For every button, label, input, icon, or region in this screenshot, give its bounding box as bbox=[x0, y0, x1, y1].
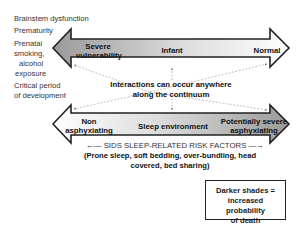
factor-critical-period: Critical period bbox=[14, 81, 60, 91]
factor-alcohol: alcohol bbox=[19, 59, 43, 69]
bottom-arrow-center-label: Sleep environment bbox=[135, 122, 211, 131]
left-arrow-icon: ←— bbox=[86, 141, 102, 150]
top-arrow-right-label: Normal bbox=[250, 46, 284, 55]
factor-brainstem-dysfunction: Brainstem dysfunction bbox=[14, 14, 89, 24]
factor-prematurity: Prematurity bbox=[14, 26, 53, 36]
risk-factors-title: SIDS SLEEP-RELATED RISK FACTORS bbox=[104, 141, 247, 150]
interactions-line-1: Interactions can occur anywhere bbox=[101, 80, 241, 90]
risk-details-line-2: covered, bed sharing) bbox=[70, 161, 270, 171]
factor-exposure: exposure bbox=[15, 69, 46, 79]
legend-line-2: increased probability bbox=[210, 196, 281, 216]
factor-prenatal: Prenatal bbox=[14, 39, 42, 49]
bottom-arrow-left-label: Non asphyxiating bbox=[64, 117, 114, 135]
factor-smoking: smoking, bbox=[14, 49, 44, 59]
factor-of-development: of development bbox=[14, 91, 66, 101]
severe-label: Severe bbox=[76, 42, 120, 51]
legend-line-1: Darker shades = bbox=[210, 186, 281, 196]
legend-box: Darker shades = increased probability of… bbox=[205, 180, 286, 220]
risk-details-line-1: (Prone sleep, soft bedding, over-bundlin… bbox=[70, 151, 270, 161]
asphyxiating-right-label: asphyxiating bbox=[218, 126, 290, 135]
interactions-text: Interactions can occur anywhere along th… bbox=[101, 80, 241, 100]
right-arrow-icon: —→ bbox=[249, 141, 265, 150]
interactions-line-2: along the continuum bbox=[101, 90, 241, 100]
top-arrow-center-label: Infant bbox=[152, 46, 192, 55]
bottom-arrow-right-label: Potentially severe asphyxiating bbox=[218, 117, 290, 135]
potentially-severe-label: Potentially severe bbox=[218, 117, 290, 126]
asphyxiating-left-label: asphyxiating bbox=[64, 126, 114, 135]
legend-line-3: of death bbox=[210, 216, 281, 225]
vulnerability-label: vulnerability bbox=[76, 51, 120, 60]
top-arrow-left-label: Severe vulnerability bbox=[76, 42, 120, 60]
non-label: Non bbox=[64, 117, 114, 126]
risk-factors-title-row: ←— SIDS SLEEP-RELATED RISK FACTORS —→ bbox=[80, 141, 270, 151]
risk-factors-details: (Prone sleep, soft bedding, over-bundlin… bbox=[70, 151, 270, 171]
